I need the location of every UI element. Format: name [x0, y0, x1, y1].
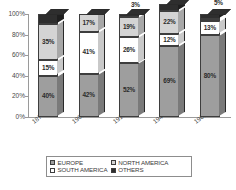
bar-segment-europe[interactable]: 40%: [38, 76, 58, 117]
bar-segment-value-label: 80%: [204, 73, 216, 79]
y-axis-tick-label: 0%: [0, 114, 25, 121]
y-axis-tick-mark: [25, 55, 28, 56]
bar-segment-side-face: [138, 33, 145, 62]
legend-swatch-north-america: [111, 160, 116, 165]
bar-segment-north-america[interactable]: 2%: [200, 19, 220, 21]
bar-segment-side-face: [57, 72, 64, 116]
bar-segment-value-label: 42%: [82, 92, 94, 98]
bar-top-face: [45, 9, 69, 15]
bar-segment-others[interactable]: 3%: [119, 14, 139, 17]
y-axis-tick-label: 80%: [0, 31, 25, 38]
bar-segment-europe[interactable]: 52%: [119, 63, 139, 117]
bar-segment-north-america[interactable]: 19%: [119, 17, 139, 37]
bar-group: 69%12%22%7%: [159, 14, 179, 117]
y-axis-tick-mark: [25, 96, 28, 97]
bar-segment-callout-label: 5%: [214, 0, 223, 6]
legend-item-south-america[interactable]: SOUTH AMERICA: [50, 167, 111, 175]
bar-group: 52%26%19%3%: [119, 14, 139, 117]
stacked-bar-chart: 40%15%35%42%41%17%52%26%19%3%69%12%22%7%…: [0, 0, 236, 190]
y-axis-tick-label: 60%: [0, 52, 25, 59]
bar-segment-side-face: [178, 43, 185, 116]
bar-segment-others[interactable]: 7%: [159, 4, 179, 11]
stacked-bar[interactable]: 52%26%19%3%: [119, 14, 139, 117]
bar-segment-north-america[interactable]: 22%: [159, 11, 179, 34]
legend-item-others[interactable]: OTHERS: [111, 167, 188, 175]
y-axis-tick-mark: [25, 14, 28, 15]
bar-segment-value-label: 52%: [123, 87, 135, 93]
bar-segment-side-face: [98, 28, 105, 73]
stacked-bar[interactable]: 42%41%17%: [79, 14, 99, 117]
bar-segment-south-america[interactable]: 41%: [79, 32, 99, 74]
bar-segment-south-america[interactable]: 26%: [119, 37, 139, 64]
bar-segment-others[interactable]: 5%: [200, 14, 220, 19]
bar-group: 40%15%35%: [38, 14, 58, 117]
y-axis-tick-label: 40%: [0, 73, 25, 80]
bar-segment-europe[interactable]: 69%: [159, 46, 179, 117]
legend-label-others: OTHERS: [118, 167, 143, 174]
bar-segment-others[interactable]: [38, 14, 58, 24]
bar-segment-value-label: 13%: [204, 25, 216, 31]
bar-segment-side-face: [138, 60, 145, 116]
stacked-bar[interactable]: 40%15%35%: [38, 14, 58, 117]
bar-segment-europe[interactable]: 80%: [200, 35, 220, 117]
bar-segment-value-label: 19%: [123, 24, 135, 30]
bar-group: 42%41%17%: [79, 14, 99, 117]
bar-segment-value-label: 35%: [42, 39, 54, 45]
y-axis-tick-mark: [25, 117, 28, 118]
legend-row: SOUTH AMERICA OTHERS: [50, 167, 188, 175]
bar-top-face: [126, 9, 150, 15]
bar-segment-value-label: 12%: [163, 37, 175, 43]
bar-segment-side-face: [57, 21, 64, 59]
bar-segment-side-face: [138, 14, 145, 36]
bar-segment-south-america[interactable]: 15%: [38, 60, 58, 75]
bar-segment-side-face: [219, 31, 226, 116]
y-axis-tick-label: 20%: [0, 93, 25, 100]
y-axis-tick-mark: [25, 35, 28, 36]
bar-segment-north-america[interactable]: 35%: [38, 24, 58, 60]
bar-segment-europe[interactable]: 42%: [79, 74, 99, 117]
stacked-bar[interactable]: 80%13%2%5%: [200, 14, 220, 117]
bar-segment-south-america[interactable]: 13%: [200, 21, 220, 34]
bar-group: 80%13%2%5%: [200, 14, 220, 117]
bar-segment-value-label: 17%: [82, 20, 94, 26]
chart-legend: EUROPE NORTH AMERICA SOUTH AMERICA OTHER…: [46, 156, 192, 177]
y-axis-tick-mark: [25, 76, 28, 77]
legend-label-south-america: SOUTH AMERICA: [58, 167, 108, 174]
plot-area: 40%15%35%42%41%17%52%26%19%3%69%12%22%7%…: [29, 14, 231, 117]
bar-top-face: [86, 9, 110, 15]
legend-swatch-south-america: [50, 168, 55, 173]
bar-segment-north-america[interactable]: 17%: [79, 14, 99, 32]
bar-segment-value-label: 26%: [123, 47, 135, 53]
bar-segment-value-label: 15%: [42, 65, 54, 71]
bar-segment-value-label: 69%: [163, 78, 175, 84]
bar-segment-side-face: [98, 70, 105, 116]
legend-swatch-others: [111, 168, 116, 173]
bar-segment-value-label: 40%: [42, 93, 54, 99]
y-axis-tick-label: 100%: [0, 11, 25, 18]
legend-swatch-europe: [50, 160, 55, 165]
bar-top-face: [166, 0, 190, 5]
bar-segment-value-label: 41%: [82, 49, 94, 55]
bar-segment-side-face: [178, 8, 185, 33]
bar-segment-callout-label: 3%: [131, 2, 140, 8]
bar-top-face: [207, 9, 231, 15]
bar-segment-south-america[interactable]: 12%: [159, 34, 179, 46]
bar-segment-value-label: 22%: [163, 19, 175, 25]
stacked-bar[interactable]: 69%12%22%7%: [159, 14, 179, 117]
